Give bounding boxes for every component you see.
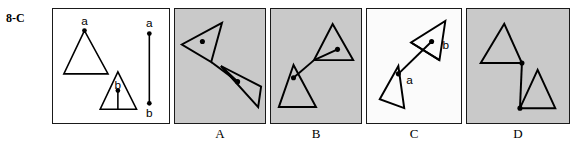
option-panel-a[interactable] [174, 8, 266, 124]
option-b-triangle-upper [314, 24, 353, 60]
stem-triangle-a [64, 31, 108, 74]
stem-triangle-a-dot [82, 28, 87, 33]
option-c-connector [398, 42, 431, 74]
option-c-dot-a [396, 71, 401, 76]
option-panel-c[interactable]: b a [366, 8, 462, 124]
test-item-figure: 8-C a b a b [0, 0, 577, 152]
option-panel-b[interactable] [270, 8, 362, 124]
option-a-dot-upper [200, 39, 205, 44]
option-d-dot-upper [519, 61, 524, 66]
stem-panel: a b a b [52, 8, 170, 124]
stem-label-a: a [81, 14, 88, 27]
option-label-a: A [174, 126, 266, 142]
option-panel-d[interactable] [466, 8, 570, 124]
option-c-label-b: b [442, 38, 449, 51]
option-c-label-a: a [406, 73, 413, 86]
option-d-dot-lower [517, 106, 522, 111]
option-d-connector [520, 63, 522, 108]
reference-segment-bottom-dot [147, 101, 152, 106]
option-b-triangle-lower [279, 65, 316, 107]
option-d-triangle-lower [520, 70, 555, 108]
option-d-triangle-upper [481, 24, 522, 63]
reference-segment-top-dot [147, 31, 152, 36]
reference-segment-label-b: b [146, 106, 153, 119]
option-label-b: B [270, 126, 362, 142]
option-b-dot-lower [291, 75, 296, 80]
reference-segment-label-a: a [146, 16, 153, 29]
option-label-c: C [366, 126, 462, 142]
option-labels: A B C D [52, 126, 570, 150]
item-number: 8-C [6, 11, 25, 26]
stem-label-b: b [115, 78, 122, 91]
option-label-d: D [466, 126, 570, 142]
option-a-dot-lower [235, 79, 240, 84]
option-c-dot-b [429, 39, 434, 44]
panel-strip: a b a b [52, 8, 570, 124]
option-b-dot-upper [335, 47, 340, 52]
